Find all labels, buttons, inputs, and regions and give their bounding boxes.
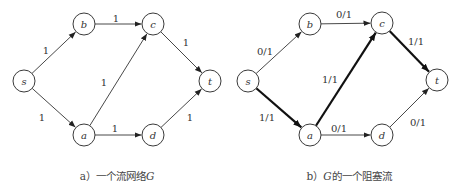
edge-label-s-b: 0/1: [257, 46, 273, 57]
edge-label-d-t: 0/1: [410, 117, 426, 128]
caption-blocking-flow: b）G的一个阻塞流: [306, 168, 391, 183]
node-s: s: [13, 70, 35, 92]
node-label: b: [81, 19, 87, 30]
edge-label-a-d: 1: [112, 123, 118, 134]
node-s: s: [237, 70, 259, 92]
edge-label-c-t: 1/1: [408, 36, 424, 47]
caption-text: a）一个流网络: [80, 170, 146, 182]
node-label: d: [150, 130, 156, 141]
edge-label-a-c: 1/1: [322, 74, 338, 85]
node-a: a: [299, 124, 321, 146]
edge-b-c: [321, 23, 371, 24]
node-label: a: [307, 130, 313, 141]
edge-s-b: [32, 32, 76, 74]
node-label: a: [81, 130, 87, 141]
figure-flow-network: 1111111sbcadt: [13, 13, 221, 147]
node-label: c: [379, 18, 385, 29]
node-a: a: [73, 124, 95, 146]
figure-blocking-flow: 0/11/10/11/10/11/10/1sbcadt: [237, 9, 448, 147]
node-label: d: [379, 130, 385, 141]
flow-network-diagram: 1111111sbcadt 0/11/10/11/10/11/10/1sbcad…: [0, 0, 457, 185]
edge-c-t: [161, 32, 202, 73]
edge-label-a-c: 1: [101, 77, 107, 88]
caption-variable: G: [323, 170, 331, 182]
edge-label-s-a: 1/1: [259, 112, 275, 123]
node-c: c: [371, 12, 393, 34]
edge-d-t: [161, 89, 202, 128]
node-label: s: [245, 76, 250, 87]
node-label: s: [21, 76, 26, 87]
node-c: c: [142, 13, 164, 35]
caption-flow-network: a）一个流网络G: [80, 168, 155, 183]
edge-label-c-t: 1: [183, 37, 189, 48]
caption-text-suffix: 的一个阻塞流: [332, 170, 392, 182]
edge-a-c: [90, 34, 147, 126]
edge-label-b-c: 1: [113, 13, 119, 24]
node-b: b: [73, 13, 95, 35]
edge-label-a-d: 0/1: [331, 123, 347, 134]
node-d: d: [371, 124, 393, 146]
caption-variable: G: [146, 170, 154, 182]
edge-label-b-c: 0/1: [336, 9, 352, 20]
node-t: t: [199, 70, 221, 92]
edge-label-s-b: 1: [43, 45, 49, 56]
edge-label-s-a: 1: [39, 112, 45, 123]
node-d: d: [142, 124, 164, 146]
node-t: t: [426, 69, 448, 91]
node-b: b: [299, 13, 321, 35]
node-label: c: [150, 19, 156, 30]
caption-text: b）: [306, 170, 323, 182]
edge-label-d-t: 1: [187, 112, 193, 123]
node-label: b: [307, 19, 313, 30]
